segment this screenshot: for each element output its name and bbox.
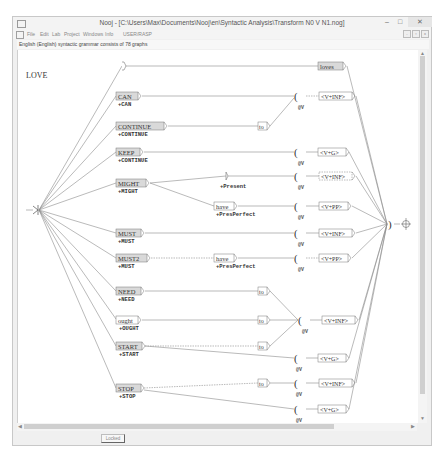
svg-text:MUST2: MUST2 xyxy=(118,255,139,262)
node-loves[interactable]: loves xyxy=(318,62,346,70)
node-keep[interactable]: KEEP +CONTINUE xyxy=(116,148,148,164)
svg-text:(: ( xyxy=(294,252,298,265)
var-group-8[interactable]: ( @V <V+G> xyxy=(294,352,349,373)
svg-text:+NEED: +NEED xyxy=(118,296,135,303)
close-paren[interactable]: ) xyxy=(388,218,392,231)
locked-button[interactable]: Locked xyxy=(101,434,125,443)
svg-text:(: ( xyxy=(294,377,298,390)
menu-edit[interactable]: Edit xyxy=(40,31,49,37)
mdi-minimize-button[interactable]: - xyxy=(403,30,411,38)
svg-text:<V+INF>: <V+INF> xyxy=(324,318,349,324)
scroll-down-icon[interactable]: ▼ xyxy=(420,415,425,421)
status-bar: Locked xyxy=(17,432,429,444)
svg-text:MUST: MUST xyxy=(118,230,136,237)
svg-text:@V: @V xyxy=(298,267,304,273)
svg-text:<V+G>: <V+G> xyxy=(320,356,339,362)
menu-project[interactable]: Project xyxy=(64,31,80,37)
graph-canvas[interactable]: LOVE loves CAN +CAN xyxy=(17,50,418,423)
svg-text:+START: +START xyxy=(119,351,140,358)
node-continue[interactable]: CONTINUE +CONTINUE xyxy=(116,122,167,138)
final-node-icon[interactable] xyxy=(401,218,411,230)
svg-text:<V+INF>: <V+INF> xyxy=(321,174,346,180)
node-to-need[interactable]: to xyxy=(258,287,270,295)
graph-title: LOVE xyxy=(26,71,47,80)
title-bar: Nooj - [C:\Users\Max\Documents\Nooj\en\S… xyxy=(13,17,431,30)
node-to-start[interactable]: to xyxy=(258,342,270,350)
node-must[interactable]: MUST +MUST xyxy=(116,229,144,245)
svg-text:+CONTINUE: +CONTINUE xyxy=(118,157,148,164)
svg-text:+MUST: +MUST xyxy=(118,263,135,270)
node-start[interactable]: START +START xyxy=(116,342,145,358)
horizontal-scrollbar[interactable]: ◀ ▶ xyxy=(17,423,417,431)
svg-text:ought: ought xyxy=(118,317,133,324)
empty-node[interactable] xyxy=(122,62,126,70)
vertical-scroll-thumb[interactable] xyxy=(420,56,425,394)
svg-text:+CONTINUE: +CONTINUE xyxy=(118,131,148,138)
node-can[interactable]: CAN +CAN xyxy=(116,92,141,108)
svg-text:(: ( xyxy=(294,170,298,183)
svg-text:to: to xyxy=(259,318,264,324)
svg-text:+PresPerfect: +PresPerfect xyxy=(216,263,256,270)
svg-text:+Present: +Present xyxy=(220,183,246,190)
var-group-4[interactable]: ( @V <V+PP> xyxy=(294,200,351,221)
initial-node[interactable] xyxy=(33,205,38,215)
mdi-restore-button[interactable]: ▫ xyxy=(412,30,420,38)
svg-text:to: to xyxy=(259,289,264,295)
svg-text:@V: @V xyxy=(296,367,302,373)
grammar-graph: LOVE loves CAN +CAN xyxy=(18,50,418,423)
horizontal-scroll-thumb[interactable] xyxy=(24,424,334,429)
minimize-button[interactable]: – xyxy=(381,17,393,27)
svg-text:have: have xyxy=(216,203,228,210)
var-group-6[interactable]: ( @V <V+PP> xyxy=(294,252,351,273)
mdi-controls: - ▫ x xyxy=(403,30,429,38)
node-stop[interactable]: STOP +STOP xyxy=(116,384,144,400)
menu-info[interactable]: Info xyxy=(105,31,113,37)
svg-text:to: to xyxy=(259,124,264,130)
var-group-5[interactable]: ( @V <V+INF> xyxy=(294,227,355,248)
var-group-2[interactable]: ( @V <V+G> xyxy=(294,146,349,167)
svg-text:@V: @V xyxy=(296,392,302,398)
node-present[interactable]: +Present xyxy=(220,172,246,190)
mdi-close-button[interactable]: x xyxy=(421,30,429,38)
var-group-1[interactable]: ( @V <V+INF> xyxy=(294,90,355,111)
svg-text:(: ( xyxy=(298,314,302,327)
svg-text:(: ( xyxy=(294,352,298,365)
vertical-scrollbar[interactable]: ▲ ▼ xyxy=(418,50,427,423)
node-have-2[interactable]: have +PresPerfect xyxy=(214,254,256,270)
svg-text:@V: @V xyxy=(302,329,308,335)
document-icon[interactable] xyxy=(16,31,24,39)
menu-file[interactable]: File xyxy=(27,31,35,37)
svg-text:have: have xyxy=(216,255,228,262)
svg-text:(: ( xyxy=(294,90,298,103)
grammar-info-header: English (English) syntactic grammar cons… xyxy=(17,40,429,49)
var-group-7[interactable]: ( @V <V+INF> xyxy=(298,314,358,335)
node-have-1[interactable]: have +PresPerfect xyxy=(214,202,256,218)
svg-text:<V+PP>: <V+PP> xyxy=(321,204,343,210)
var-group-10[interactable]: ( @V <V+G> xyxy=(294,403,349,423)
scroll-left-icon[interactable]: ◀ xyxy=(18,423,22,429)
var-group-9[interactable]: ( @V <V+INF> xyxy=(294,377,355,398)
svg-text:STOP: STOP xyxy=(118,385,134,392)
window-title: Nooj - [C:\Users\Max\Documents\Nooj\en\S… xyxy=(13,19,431,26)
node-might[interactable]: MIGHT +MIGHT xyxy=(116,179,149,195)
scroll-right-icon[interactable]: ▶ xyxy=(411,423,415,429)
menu-windows[interactable]: Windows xyxy=(83,31,103,37)
svg-text:(: ( xyxy=(294,403,298,416)
maximize-button[interactable]: □ xyxy=(394,17,406,27)
svg-text:(: ( xyxy=(294,227,298,240)
menu-lab[interactable]: Lab xyxy=(52,31,60,37)
node-ought[interactable]: ought +OUGHT xyxy=(116,316,141,332)
svg-text:(: ( xyxy=(294,200,298,213)
svg-text:<V+INF>: <V+INF> xyxy=(321,94,346,100)
menu-bar: File Edit Lab Project Windows Info USER/… xyxy=(13,30,431,39)
node-must2[interactable]: MUST2 +MUST xyxy=(116,254,150,270)
svg-text:CONTINUE: CONTINUE xyxy=(118,123,151,130)
node-need[interactable]: NEED +NEED xyxy=(116,287,144,303)
svg-text:+STOP: +STOP xyxy=(119,393,136,400)
node-to-ought[interactable]: to xyxy=(258,316,270,324)
menu-user[interactable]: USER/RASP xyxy=(123,31,152,37)
var-group-3[interactable]: ( @V <V+INF> xyxy=(294,170,355,191)
node-to-stop[interactable]: to xyxy=(258,379,270,387)
node-to-continue[interactable]: to xyxy=(258,122,270,130)
close-button[interactable]: ✕ xyxy=(408,17,432,27)
